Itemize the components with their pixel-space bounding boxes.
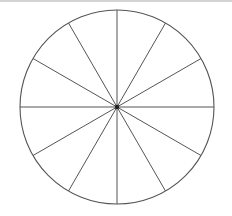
center-dot (115, 105, 119, 109)
spoke-line (117, 107, 166, 191)
spoke-line (117, 107, 201, 156)
spoke-line (33, 59, 117, 108)
spoke-line (117, 59, 201, 108)
spoke-line (117, 23, 166, 107)
spoke-line (69, 23, 118, 107)
divided-circle-diagram (0, 0, 232, 216)
spoke-line (33, 107, 117, 156)
spoke-line (69, 107, 118, 191)
